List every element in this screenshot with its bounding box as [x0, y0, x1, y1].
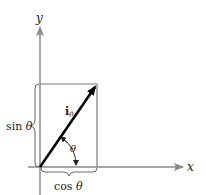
vector-label: iθ [65, 105, 74, 119]
sin-label-var: θ [26, 120, 33, 133]
cos-label: cos θ [54, 180, 83, 193]
cos-label-var: θ [76, 180, 83, 193]
sin-label: sin θ [6, 120, 33, 133]
diagram-svg: y x iθ θ sin θ cos θ [0, 0, 206, 195]
cos-brace [41, 168, 97, 176]
y-axis-label: y [35, 11, 43, 25]
angle-arc-start [61, 137, 68, 143]
unit-vector-arrow [40, 87, 95, 167]
sin-label-func: sin [6, 120, 26, 133]
x-axis-label: x [187, 160, 194, 174]
cos-label-func: cos [54, 180, 76, 193]
angle-label: θ [70, 143, 76, 154]
unit-vector-diagram: y x iθ θ sin θ cos θ [0, 0, 206, 195]
